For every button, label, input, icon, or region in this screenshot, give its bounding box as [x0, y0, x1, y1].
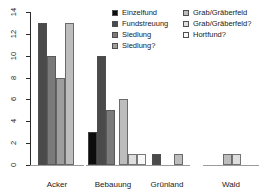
bar — [38, 23, 47, 165]
y-tick-label: 8 — [9, 75, 18, 79]
y-axis-line — [30, 12, 31, 165]
legend-swatch — [112, 10, 118, 16]
bar — [119, 99, 128, 165]
bar — [106, 110, 115, 165]
legend-item: Grab/Gräberfeld? — [183, 19, 251, 29]
bar — [65, 23, 74, 165]
x-category-label: Wald — [222, 180, 240, 189]
x-baseline-segment — [203, 165, 259, 166]
bar — [128, 154, 137, 165]
y-tick-label: 6 — [9, 97, 18, 101]
x-category-label: Grünland — [151, 180, 184, 189]
legend-label: Einzelfund — [122, 8, 157, 18]
legend-item: Siedlung? — [112, 41, 155, 51]
legend-swatch — [112, 43, 118, 49]
x-category-label: Acker — [47, 180, 67, 189]
y-tick-mark — [26, 12, 30, 13]
x-baseline-segment — [30, 165, 84, 166]
y-tick-mark — [26, 56, 30, 57]
legend-swatch — [183, 32, 189, 38]
legend-item: Siedlung — [112, 30, 151, 40]
bar — [97, 56, 106, 165]
bar — [137, 154, 146, 165]
bar-chart-figure: 02468101214 AckerBebauungGrünlandWald Ei… — [0, 0, 261, 194]
legend-label: Grab/Gräberfeld — [193, 8, 247, 18]
y-tick-mark — [26, 34, 30, 35]
legend-item: Hortfund? — [183, 30, 226, 40]
y-tick-label: 4 — [9, 119, 18, 123]
bar — [174, 154, 183, 165]
bar — [232, 154, 241, 165]
y-tick-mark — [26, 78, 30, 79]
x-baseline-segment — [86, 165, 147, 166]
legend-item: Grab/Gräberfeld — [183, 8, 247, 18]
y-tick-mark — [26, 99, 30, 100]
y-tick-mark — [26, 143, 30, 144]
bar — [56, 78, 65, 165]
legend-label: Hortfund? — [193, 30, 226, 40]
legend-swatch — [183, 21, 189, 27]
legend-label: Siedlung — [122, 30, 151, 40]
bar — [152, 154, 161, 165]
legend-item: Einzelfund — [112, 8, 157, 18]
legend-item: Fundstreuung — [112, 19, 168, 29]
legend-label: Siedlung? — [122, 41, 155, 51]
bar — [88, 132, 97, 165]
y-tick-mark — [26, 121, 30, 122]
y-tick-label: 0 — [9, 163, 18, 167]
legend-swatch — [112, 21, 118, 27]
bar — [223, 154, 232, 165]
legend-swatch — [112, 32, 118, 38]
y-tick-label: 2 — [9, 141, 18, 145]
y-tick-label: 10 — [9, 52, 18, 60]
legend-label: Grab/Gräberfeld? — [193, 19, 251, 29]
bar — [47, 56, 56, 165]
x-baseline-segment — [147, 165, 190, 166]
y-tick-label: 12 — [9, 30, 18, 38]
x-category-label: Bebauung — [95, 180, 131, 189]
legend-swatch — [183, 10, 189, 16]
legend-label: Fundstreuung — [122, 19, 168, 29]
y-tick-label: 14 — [9, 8, 18, 16]
